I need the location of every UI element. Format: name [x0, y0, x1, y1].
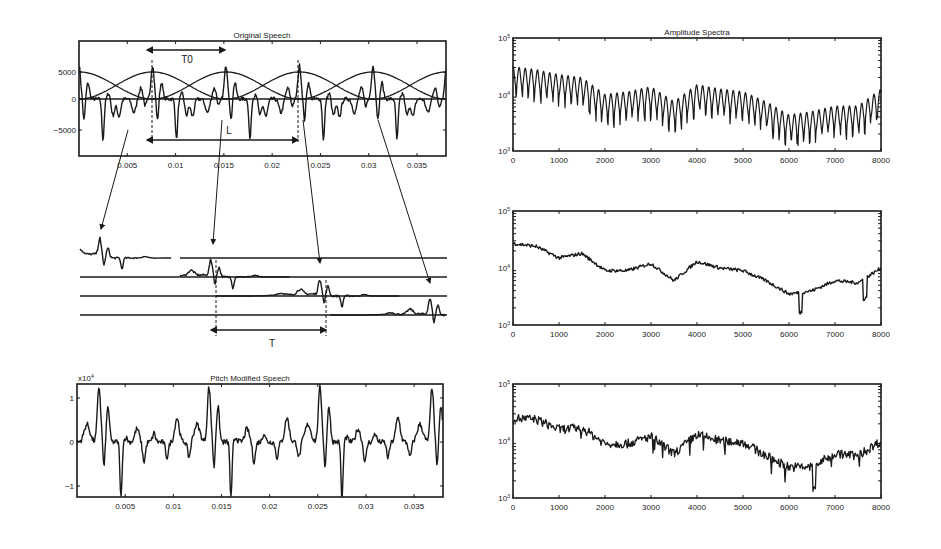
- x-tick-label: 1000: [550, 330, 568, 339]
- y-tick-label: −5000: [54, 126, 77, 135]
- y-axis: 105104103: [498, 206, 881, 330]
- y-tick-label: 104: [498, 90, 510, 100]
- x-tick-label: 5000: [734, 330, 752, 339]
- x-tick-label: 4000: [688, 330, 706, 339]
- y-tick-label: 5000: [58, 68, 76, 77]
- plot-frame: [513, 384, 881, 498]
- spectrum-line: [513, 243, 881, 314]
- x-tick-label: 2000: [596, 330, 614, 339]
- arrow-2: [213, 120, 222, 244]
- x-tick-label: 7000: [826, 156, 844, 165]
- t0-label: T0: [181, 54, 193, 65]
- x-tick-label: 4000: [688, 503, 706, 512]
- y-tick-label: 104: [498, 263, 510, 273]
- x-tick-label: 0.035: [407, 161, 428, 170]
- l-label: L: [226, 125, 232, 136]
- plot-title: Amplitude Spectra: [664, 28, 730, 37]
- spectrum-plot-2: 105104103 010002000300040005000600070008…: [498, 206, 890, 339]
- plot-frame: [77, 384, 443, 497]
- pitch-modified-speech-plot: Pitch Modified Speech x104 10−1 0.0050.0…: [65, 373, 443, 511]
- spectrum-line: [513, 66, 881, 145]
- segment-3: [216, 281, 399, 307]
- x-tick-label: 7000: [826, 503, 844, 512]
- y-tick-label: 0: [70, 438, 75, 447]
- x-tick-label: 5000: [734, 503, 752, 512]
- x-tick-label: 0.01: [168, 161, 184, 170]
- x-tick-label: 3000: [642, 156, 660, 165]
- x-tick-label: 0: [511, 156, 516, 165]
- window-curves: [79, 72, 445, 99]
- plot-title: Pitch Modified Speech: [210, 374, 290, 383]
- y-tick-label: 103: [498, 493, 510, 503]
- x-tick-label: 0.005: [115, 502, 136, 511]
- y-tick-label: 103: [498, 146, 510, 156]
- x-tick-label: 0.035: [404, 502, 425, 511]
- x-tick-label: 0.025: [310, 161, 331, 170]
- x-tick-label: 5000: [734, 156, 752, 165]
- x-tick-label: 8000: [872, 156, 890, 165]
- x-tick-label: 6000: [780, 156, 798, 165]
- x-tick-label: 0.025: [308, 502, 329, 511]
- x-tick-label: 0.005: [117, 161, 138, 170]
- y-tick-label: 104: [498, 436, 510, 446]
- arrow-3: [303, 120, 320, 263]
- x-axis: 0.0050.010.0150.020.0250.030.035: [117, 41, 427, 170]
- x-tick-label: 0.02: [262, 502, 278, 511]
- x-tick-label: 0.01: [166, 502, 182, 511]
- x-axis: 0.0050.010.0150.020.0250.030.035: [115, 384, 425, 511]
- y-tick-label: 105: [498, 379, 510, 389]
- figure: Original Speech 50000−5000 0.0050.010.01…: [0, 0, 941, 549]
- x-tick-label: 3000: [642, 503, 660, 512]
- x-tick-label: 1000: [550, 156, 568, 165]
- x-tick-label: 6000: [780, 330, 798, 339]
- modified-waveform: [77, 385, 442, 496]
- x-axis: 010002000300040005000600070008000: [511, 211, 891, 339]
- x-tick-label: 6000: [780, 503, 798, 512]
- x-tick-label: 8000: [872, 330, 890, 339]
- x-tick-label: 7000: [826, 330, 844, 339]
- spectrum-plot-3: 105104103 010002000300040005000600070008…: [498, 379, 890, 512]
- y-tick-label: 1: [70, 394, 75, 403]
- x-tick-label: 3000: [642, 330, 660, 339]
- x-tick-label: 0.02: [264, 161, 280, 170]
- y-tick-label: −1: [65, 482, 75, 491]
- y-tick-label: 103: [498, 320, 510, 330]
- x-tick-label: 8000: [872, 503, 890, 512]
- x-tick-label: 0.03: [361, 161, 377, 170]
- y-scale-label: x104: [78, 373, 94, 383]
- segment-2: [180, 259, 290, 289]
- plot-frame: [513, 211, 881, 325]
- windowed-segments-plot: T: [80, 237, 447, 349]
- x-tick-label: 0.015: [211, 502, 232, 511]
- x-tick-label: 2000: [596, 503, 614, 512]
- x-tick-label: 2000: [596, 156, 614, 165]
- segment-4: [330, 299, 445, 323]
- y-tick-label: 105: [498, 33, 510, 43]
- arrow-1: [101, 130, 128, 229]
- x-tick-label: 0.015: [214, 161, 235, 170]
- y-tick-label: 0: [72, 95, 77, 104]
- y-tick-label: 105: [498, 206, 510, 216]
- plot-title: Original Speech: [234, 31, 291, 40]
- x-axis: 010002000300040005000600070008000: [511, 384, 891, 512]
- t-label: T: [269, 338, 275, 349]
- x-tick-label: 0.03: [358, 502, 374, 511]
- x-tick-label: 1000: [550, 503, 568, 512]
- spectrum-plot-1: Amplitude Spectra 105104103 010002000300…: [498, 28, 890, 165]
- x-tick-label: 4000: [688, 156, 706, 165]
- segment-1: [80, 237, 171, 268]
- x-tick-label: 0: [511, 503, 516, 512]
- spectrum-line: [513, 415, 881, 492]
- x-tick-label: 0: [511, 330, 516, 339]
- plot-frame: [513, 38, 881, 151]
